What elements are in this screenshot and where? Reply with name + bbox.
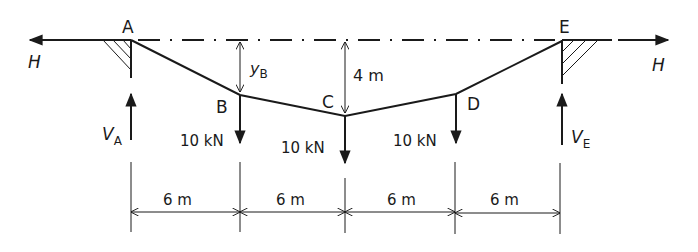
support-e <box>562 40 608 85</box>
sag-label-c: 4 m <box>353 66 384 85</box>
h-label-right: H <box>652 55 665 75</box>
h-label-left: H <box>28 52 41 72</box>
cable <box>131 40 562 116</box>
node-label-e: E <box>559 17 570 37</box>
node-label-c: C <box>322 92 334 112</box>
support-a <box>103 40 131 78</box>
reaction-label-a: VA <box>102 124 123 148</box>
reaction-label-e: VE <box>571 127 590 151</box>
node-label-b: B <box>216 97 228 117</box>
span-label-1: 6 m <box>163 191 192 209</box>
load-label-d: 10 kN <box>393 132 437 150</box>
span-label-2: 6 m <box>276 191 305 209</box>
sag-label-b: yB <box>249 59 268 81</box>
cable-diagram: A B C D E H H yB 4 m VA VE 10 kN 10 kN 1… <box>0 0 698 252</box>
load-label-c: 10 kN <box>281 139 325 157</box>
node-label-d: D <box>467 94 480 114</box>
span-label-3: 6 m <box>387 191 416 209</box>
span-label-4: 6 m <box>490 191 519 209</box>
node-label-a: A <box>122 17 134 37</box>
load-label-b: 10 kN <box>180 132 224 150</box>
